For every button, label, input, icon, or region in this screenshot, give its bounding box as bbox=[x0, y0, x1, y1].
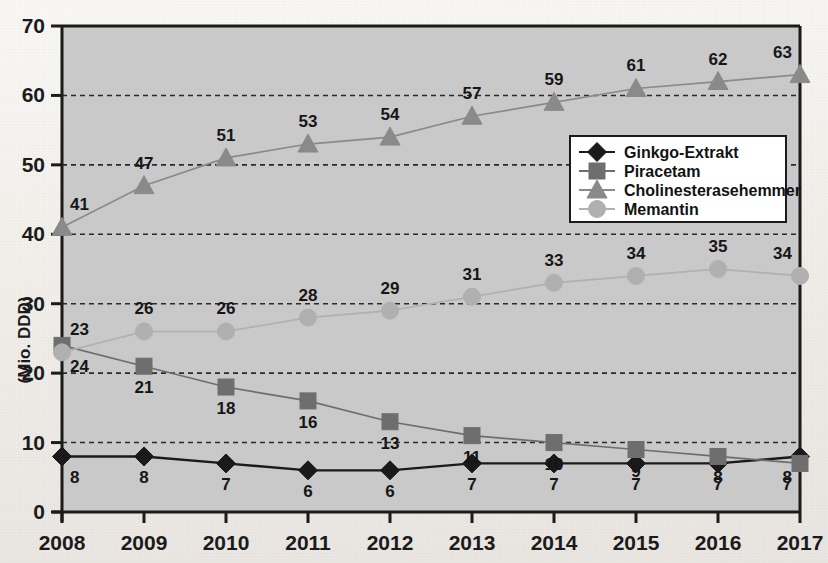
marker-circle bbox=[792, 267, 809, 284]
y-axis-tick-label: 70 bbox=[22, 14, 45, 37]
data-point-label: 21 bbox=[135, 378, 154, 397]
data-point-label: 24 bbox=[70, 357, 89, 376]
y-axis-tick-label: 60 bbox=[22, 83, 45, 106]
marker-circle bbox=[382, 302, 399, 319]
x-axis-tick-label: 2012 bbox=[367, 531, 414, 554]
data-point-label: 8 bbox=[139, 468, 148, 487]
data-point-label: 9 bbox=[631, 462, 640, 481]
marker-circle bbox=[546, 274, 563, 291]
data-point-label: 7 bbox=[549, 475, 558, 494]
y-axis-tick-label: 50 bbox=[22, 153, 45, 176]
marker-circle bbox=[464, 288, 481, 305]
y-axis-title: (Mio. DDD) bbox=[15, 297, 34, 384]
data-point-label: 8 bbox=[70, 468, 79, 487]
data-point-label: 61 bbox=[627, 56, 646, 75]
data-point-label: 62 bbox=[709, 50, 728, 69]
data-point-label: 31 bbox=[463, 265, 482, 284]
data-point-label: 7 bbox=[467, 475, 476, 494]
data-point-label: 10 bbox=[545, 455, 564, 474]
data-point-label: 53 bbox=[299, 112, 318, 131]
data-point-label: 28 bbox=[299, 286, 318, 305]
marker-square bbox=[589, 163, 605, 179]
data-point-label: 59 bbox=[545, 70, 564, 89]
data-point-label: 16 bbox=[299, 413, 318, 432]
data-point-label: 23 bbox=[70, 320, 89, 339]
y-axis-tick-label: 10 bbox=[22, 431, 45, 454]
data-point-label: 41 bbox=[70, 195, 89, 214]
data-point-label: 35 bbox=[709, 237, 728, 256]
marker-circle bbox=[136, 323, 153, 340]
y-axis-tick-label: 0 bbox=[33, 500, 45, 523]
marker-circle bbox=[589, 201, 606, 218]
data-point-label: 18 bbox=[217, 399, 236, 418]
marker-square bbox=[464, 428, 480, 444]
data-point-label: 7 bbox=[783, 475, 792, 494]
data-point-label: 29 bbox=[381, 279, 400, 298]
data-point-label: 47 bbox=[135, 154, 154, 173]
x-axis-tick-label: 2013 bbox=[449, 531, 496, 554]
marker-square bbox=[546, 435, 562, 451]
x-axis-tick-label: 2008 bbox=[39, 531, 86, 554]
legend-item-label: Memantin bbox=[624, 201, 699, 218]
data-point-label: 6 bbox=[385, 482, 394, 501]
data-point-label: 34 bbox=[773, 244, 792, 263]
marker-circle bbox=[54, 344, 71, 361]
data-point-label: 8 bbox=[713, 468, 722, 487]
data-point-label: 26 bbox=[217, 299, 236, 318]
data-point-label: 7 bbox=[221, 475, 230, 494]
data-point-label: 13 bbox=[381, 434, 400, 453]
x-axis-tick-label: 2009 bbox=[121, 531, 168, 554]
x-axis-tick-label: 2017 bbox=[777, 531, 824, 554]
plot-area-background bbox=[62, 26, 800, 512]
x-axis-tick-label: 2014 bbox=[531, 531, 578, 554]
legend-item-label: Cholinesterasehemmer bbox=[624, 182, 801, 199]
marker-circle bbox=[218, 323, 235, 340]
legend-item-label: Ginkgo-Extrakt bbox=[624, 144, 739, 161]
marker-square bbox=[628, 442, 644, 458]
marker-circle bbox=[710, 261, 727, 278]
marker-square bbox=[710, 448, 726, 464]
data-point-label: 54 bbox=[381, 105, 400, 124]
data-point-label: 33 bbox=[545, 251, 564, 270]
marker-circle bbox=[628, 267, 645, 284]
x-axis-tick-label: 2011 bbox=[285, 531, 331, 554]
data-point-label: 26 bbox=[135, 299, 154, 318]
data-point-label: 63 bbox=[773, 43, 792, 62]
marker-square bbox=[792, 455, 808, 471]
data-point-label: 34 bbox=[627, 244, 646, 263]
y-axis-tick-label: 40 bbox=[22, 222, 45, 245]
marker-circle bbox=[300, 309, 317, 326]
x-axis-tick-label: 2010 bbox=[203, 531, 250, 554]
data-point-label: 11 bbox=[463, 448, 481, 467]
marker-square bbox=[218, 379, 234, 395]
marker-square bbox=[382, 414, 398, 430]
line-chart: 010203040506070(Mio. DDD)200820092010201… bbox=[0, 0, 828, 563]
marker-square bbox=[136, 358, 152, 374]
legend: Ginkgo-ExtraktPiracetamCholinesterasehem… bbox=[570, 136, 801, 222]
data-point-label: 57 bbox=[463, 84, 482, 103]
data-point-label: 6 bbox=[303, 482, 312, 501]
x-axis-tick-label: 2015 bbox=[613, 531, 660, 554]
marker-square bbox=[300, 393, 316, 409]
chart-container: 010203040506070(Mio. DDD)200820092010201… bbox=[0, 0, 828, 563]
x-axis-tick-label: 2016 bbox=[695, 531, 742, 554]
data-point-label: 51 bbox=[217, 126, 236, 145]
legend-item-label: Piracetam bbox=[624, 163, 701, 180]
